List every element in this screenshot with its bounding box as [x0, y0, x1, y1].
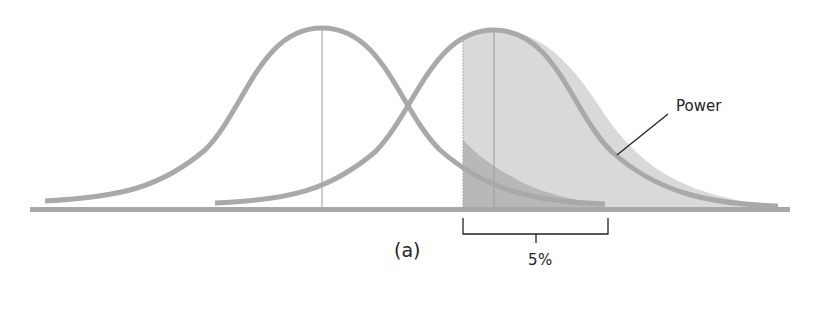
alpha-bracket	[463, 218, 608, 243]
power-diagram	[0, 0, 822, 328]
power-leader-line	[617, 114, 668, 155]
x-axis-baseline	[30, 207, 790, 212]
panel-label: (a)	[394, 239, 420, 261]
power-label: Power	[676, 97, 721, 115]
alpha-level-label: 5%	[528, 251, 553, 269]
